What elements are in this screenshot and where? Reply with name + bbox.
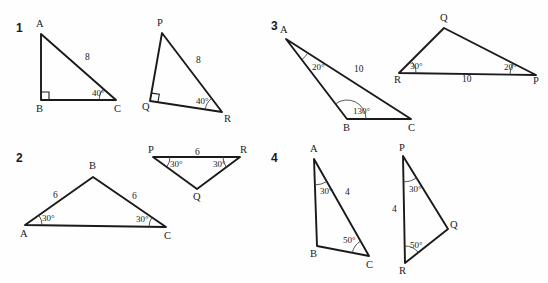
- vertex-label: Q: [440, 12, 448, 23]
- side-length-label: 4: [345, 187, 350, 197]
- problem-number: 1: [16, 22, 23, 34]
- side-length-label: 4: [392, 204, 397, 214]
- angle-label: 30°: [42, 213, 55, 223]
- angle-label: 30°: [409, 184, 422, 194]
- vertex-label: R: [399, 265, 406, 276]
- side-length-label: 6: [53, 190, 58, 200]
- vertex-label: B: [89, 160, 96, 171]
- angle-label: 30°: [213, 159, 226, 169]
- side-length-label: 6: [195, 147, 200, 157]
- vertex-label: A: [310, 143, 318, 154]
- vertex-label: C: [164, 230, 171, 241]
- triangle-rqp: 30°20°10RQP: [394, 12, 539, 86]
- vertex-label: R: [394, 74, 401, 85]
- angle-label: 130°: [353, 106, 371, 116]
- side-length-label: 8: [85, 52, 90, 62]
- vertex-label: C: [114, 103, 121, 114]
- angle-arc: [149, 217, 152, 226]
- angle-label: 30°: [320, 186, 333, 196]
- side-length-label: 10: [462, 74, 472, 84]
- vertex-label: Q: [193, 191, 201, 202]
- angle-label: 20°: [312, 62, 325, 72]
- triangle-pqr: 30°50°4PQR: [392, 142, 458, 276]
- triangle-abc: 30°30°66ABC: [20, 160, 171, 241]
- right-angle-mark: [41, 92, 49, 100]
- angle-arc: [403, 178, 416, 182]
- vertex-label: A: [36, 18, 44, 29]
- triangle-pqr: 40°8PQR: [142, 17, 231, 124]
- triangles-figure: 40°8ABC40°8PQR30°30°66ABC30°30°6PRQ20°13…: [0, 0, 548, 283]
- triangle-abc: 30°50°4ABC: [310, 143, 373, 270]
- triangle-outline: [153, 157, 240, 189]
- vertex-label: R: [224, 113, 231, 124]
- side-length-label: 6: [132, 191, 137, 201]
- triangle-outline: [41, 34, 116, 100]
- angle-arc: [315, 182, 327, 185]
- worksheet-page: 40°8ABC40°8PQR30°30°66ABC30°30°6PRQ20°13…: [0, 0, 548, 283]
- triangle-pqr: 30°30°6PRQ: [148, 144, 247, 202]
- problem-number: 4: [271, 152, 278, 164]
- vertex-label: P: [399, 142, 405, 153]
- angle-label: 40°: [196, 96, 209, 106]
- problem-number: 3: [271, 20, 278, 32]
- vertex-label: R: [240, 144, 247, 155]
- triangle-outline: [150, 33, 222, 112]
- angle-label: 30°: [170, 159, 183, 169]
- angle-label: 40°: [92, 88, 105, 98]
- vertex-label: A: [20, 228, 28, 239]
- vertex-label: A: [280, 24, 288, 35]
- problem-number: 2: [16, 152, 23, 164]
- vertex-label: P: [157, 17, 163, 28]
- vertex-label: Q: [450, 219, 458, 230]
- angle-label: 30°: [136, 214, 149, 224]
- vertex-label: P: [533, 75, 539, 86]
- triangle-abc: 40°8ABC: [36, 18, 121, 114]
- vertex-label: C: [408, 122, 415, 133]
- angle-arc: [302, 53, 308, 60]
- angle-label: 30°: [410, 61, 423, 71]
- vertex-label: B: [36, 103, 43, 114]
- triangle-outline: [314, 159, 369, 256]
- vertex-label: B: [343, 122, 350, 133]
- vertex-label: C: [366, 259, 373, 270]
- vertex-label: Q: [142, 101, 150, 112]
- side-length-label: 10: [354, 64, 364, 74]
- angle-label: 20°: [504, 62, 517, 72]
- angle-label: 50°: [343, 235, 356, 245]
- triangle-outline: [286, 39, 411, 119]
- vertex-label: P: [148, 144, 154, 155]
- angle-label: 50°: [410, 240, 423, 250]
- side-length-label: 8: [196, 55, 201, 65]
- vertex-label: B: [310, 248, 317, 259]
